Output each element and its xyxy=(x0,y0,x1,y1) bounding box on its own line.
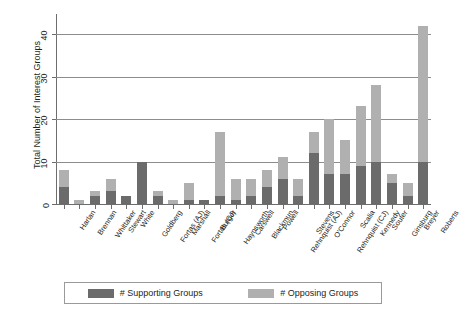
bar-segment-supporting xyxy=(387,183,397,204)
bar-slot xyxy=(369,18,385,204)
legend-swatch xyxy=(88,289,114,298)
bar-segment-supporting xyxy=(106,191,116,204)
bar-slot xyxy=(384,18,400,204)
bar-segment-supporting xyxy=(340,174,350,204)
x-tick-label: Harlan xyxy=(78,209,96,231)
bar-stack[interactable] xyxy=(340,140,350,204)
bar-segment-opposing xyxy=(106,179,116,192)
bar-segment-supporting xyxy=(199,200,209,204)
bar-segment-supporting xyxy=(90,196,100,205)
bar-segment-supporting xyxy=(231,200,241,204)
bar-stack[interactable] xyxy=(215,132,225,204)
x-tick-label: Burger xyxy=(219,209,238,232)
bar-segment-opposing xyxy=(184,183,194,200)
bar-slot xyxy=(119,18,135,204)
bar-slot xyxy=(103,18,119,204)
bar-slot xyxy=(56,18,72,204)
bar-stack[interactable] xyxy=(106,179,116,205)
legend-item[interactable]: # Opposing Groups xyxy=(248,288,358,298)
bar-stack[interactable] xyxy=(371,85,381,204)
bar-stack[interactable] xyxy=(199,200,209,204)
bar-stack[interactable] xyxy=(356,106,366,204)
y-tick-label: 0 xyxy=(44,201,49,210)
y-tick-label: 20 xyxy=(39,116,49,125)
bar-segment-opposing xyxy=(293,179,303,196)
bar-slot xyxy=(244,18,260,204)
bar-stack[interactable] xyxy=(121,196,131,205)
bar-stack[interactable] xyxy=(184,183,194,204)
bar-slot xyxy=(72,18,88,204)
legend-item[interactable]: # Supporting Groups xyxy=(88,288,203,298)
bar-segment-opposing xyxy=(278,157,288,178)
bar-slot xyxy=(87,18,103,204)
bar-slot xyxy=(353,18,369,204)
bar-segment-supporting xyxy=(59,187,69,204)
bar-segment-supporting xyxy=(137,162,147,205)
bar-segment-supporting xyxy=(153,196,163,205)
bar-segment-supporting xyxy=(215,196,225,205)
bar-stack[interactable] xyxy=(293,179,303,205)
bar-segment-opposing xyxy=(340,140,350,174)
bar-segment-opposing xyxy=(403,183,413,196)
bar-stack[interactable] xyxy=(90,191,100,204)
bar-segment-opposing xyxy=(387,174,397,183)
bar-stack[interactable] xyxy=(262,170,272,204)
bar-stack[interactable] xyxy=(137,162,147,205)
bar-slot xyxy=(415,18,431,204)
bar-segment-opposing xyxy=(371,85,381,162)
bar-segment-supporting xyxy=(309,153,319,204)
bar-segment-supporting xyxy=(262,187,272,204)
legend-label: # Opposing Groups xyxy=(280,288,358,298)
bar-stack[interactable] xyxy=(403,183,413,204)
x-tick-label: Roberts xyxy=(440,209,461,235)
bar-segment-supporting xyxy=(278,179,288,205)
bar-segment-opposing xyxy=(246,179,256,196)
bar-slot xyxy=(275,18,291,204)
bar-stack[interactable] xyxy=(153,191,163,204)
bar-stack[interactable] xyxy=(309,132,319,204)
bar-segment-opposing xyxy=(215,132,225,196)
bar-segment-opposing xyxy=(324,119,334,174)
bar-stack[interactable] xyxy=(324,119,334,204)
bar-slot xyxy=(322,18,338,204)
y-tick-label: 30 xyxy=(39,74,49,83)
bar-segment-opposing xyxy=(309,132,319,153)
x-axis-labels: HarlanBrennanWhittakerStewartWhiteGoldbe… xyxy=(56,209,431,275)
legend-label: # Supporting Groups xyxy=(120,288,203,298)
bar-slot xyxy=(150,18,166,204)
bar-stack[interactable] xyxy=(387,174,397,204)
bar-segment-opposing xyxy=(168,200,178,204)
bar-stack[interactable] xyxy=(59,170,69,204)
bar-slot xyxy=(290,18,306,204)
bar-stack[interactable] xyxy=(278,157,288,204)
bar-segment-opposing xyxy=(356,106,366,166)
y-tick-label: 10 xyxy=(39,159,49,168)
bar-stack[interactable] xyxy=(418,26,428,205)
bar-segment-opposing xyxy=(418,26,428,162)
bar-slot xyxy=(306,18,322,204)
bar-stack[interactable] xyxy=(168,200,178,204)
bar-segment-supporting xyxy=(324,174,334,204)
bar-segment-supporting xyxy=(121,196,131,205)
bar-segment-supporting xyxy=(246,196,256,205)
bar-slot xyxy=(134,18,150,204)
bar-stack[interactable] xyxy=(246,179,256,205)
bar-segment-supporting xyxy=(371,162,381,205)
plot-area: 010203040 xyxy=(56,18,431,205)
bar-slot xyxy=(212,18,228,204)
bar-slot xyxy=(197,18,213,204)
bar-segment-supporting xyxy=(184,200,194,204)
bar-slot xyxy=(165,18,181,204)
legend-swatch xyxy=(248,289,274,298)
bar-slot xyxy=(259,18,275,204)
bar-stack[interactable] xyxy=(231,179,241,205)
bar-slot xyxy=(400,18,416,204)
bar-segment-opposing xyxy=(74,200,84,204)
bar-segment-supporting xyxy=(418,162,428,205)
bar-segment-supporting xyxy=(293,196,303,205)
bar-segment-supporting xyxy=(356,166,366,204)
bar-slot xyxy=(228,18,244,204)
bar-segment-opposing xyxy=(231,179,241,200)
bar-stack[interactable] xyxy=(74,200,84,204)
